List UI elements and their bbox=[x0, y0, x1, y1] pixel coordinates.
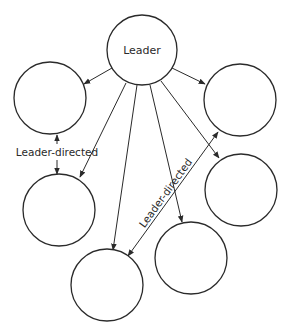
edge-label-diagonal: Leader-directed bbox=[136, 156, 194, 230]
node-member-top-left bbox=[14, 62, 86, 134]
edge-leader-to-top-left bbox=[84, 68, 112, 84]
cropped-caption-fragment bbox=[90, 326, 200, 333]
edge-label-left: Leader-directed bbox=[16, 146, 98, 158]
node-member-right-middle bbox=[205, 154, 277, 226]
nodes: Leader bbox=[14, 15, 277, 321]
leadership-diagram: Leader Leader-directed Leader-directed bbox=[0, 0, 294, 333]
edge-leader-to-left-middle bbox=[80, 83, 126, 177]
node-leader: Leader bbox=[107, 15, 177, 85]
edge-leader-to-bottom-left bbox=[113, 85, 137, 250]
node-member-left-middle bbox=[23, 174, 95, 246]
node-member-bottom-left bbox=[71, 249, 143, 321]
node-member-bottom-right bbox=[155, 222, 227, 294]
node-member-top-right bbox=[204, 64, 276, 136]
leader-label: Leader bbox=[123, 44, 161, 57]
edge-leader-to-top-right bbox=[172, 68, 205, 84]
